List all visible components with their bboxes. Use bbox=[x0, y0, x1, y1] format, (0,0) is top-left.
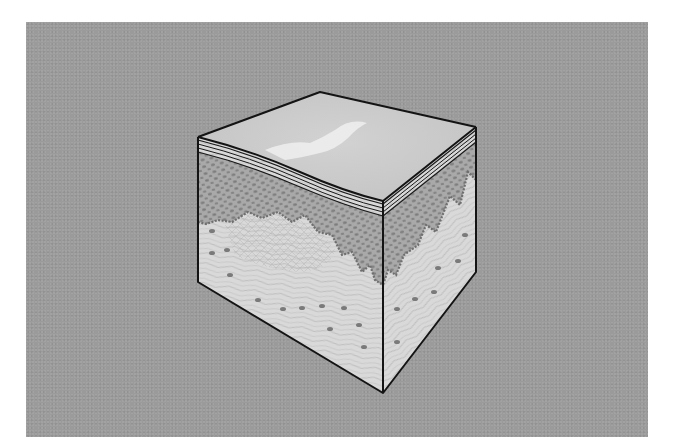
skin-block-illustration bbox=[0, 0, 675, 447]
